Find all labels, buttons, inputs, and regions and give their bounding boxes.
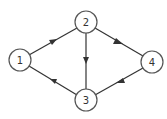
node-3-label: 3: [83, 95, 89, 106]
node-3: 3: [75, 89, 97, 111]
node-2-label: 2: [83, 17, 89, 28]
node-2: 2: [75, 11, 97, 33]
arrow-1-2-icon: [49, 39, 57, 45]
arrow-2-3-icon: [83, 57, 89, 64]
arrow-3-1-icon: [50, 79, 57, 84]
edges: [29, 28, 143, 95]
node-1: 1: [9, 49, 31, 71]
node-4-label: 4: [149, 57, 155, 68]
node-4: 4: [141, 51, 163, 73]
node-1-label: 1: [17, 55, 23, 66]
directed-graph: 1 2 3 4: [0, 0, 167, 119]
